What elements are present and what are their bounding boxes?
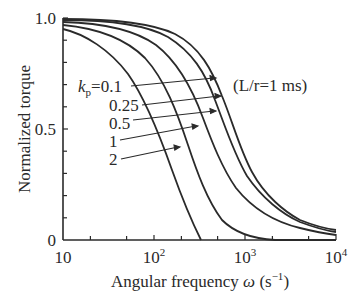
x-tick-label-10000: 104 bbox=[325, 246, 348, 267]
curve-kp-1 bbox=[63, 25, 336, 240]
curves bbox=[63, 19, 336, 240]
kp-label-0.25: 0.25 bbox=[109, 96, 139, 115]
time-constant-annotation: (L/r=1 ms) bbox=[233, 76, 307, 95]
y-tick-label-1: 1.0 bbox=[35, 9, 56, 28]
torque-frequency-chart: kp=0.1 0.25 0.5 1 2 (L/r=1 ms) 1.0 0.5 0… bbox=[0, 0, 354, 299]
kp-label-0.1: kp=0.1 bbox=[78, 77, 122, 98]
curve-kp-0.25 bbox=[63, 20, 336, 232]
x-tick-label-100: 102 bbox=[143, 246, 166, 267]
curve-kp-2 bbox=[63, 29, 201, 240]
kp-labels: kp=0.1 0.25 0.5 1 2 bbox=[78, 77, 139, 169]
x-tick-label-1000: 103 bbox=[234, 246, 257, 267]
curve-kp-0.1 bbox=[63, 19, 336, 230]
y-tick-label-0.5: 0.5 bbox=[35, 120, 56, 139]
x-tick-label-10: 10 bbox=[55, 248, 72, 267]
kp-label-2: 2 bbox=[109, 150, 118, 169]
y-axis-label: Normalized torque bbox=[15, 65, 34, 193]
leader-lines bbox=[120, 76, 221, 160]
kp-label-0.5: 0.5 bbox=[109, 114, 130, 133]
axes bbox=[63, 18, 336, 240]
kp-label-1: 1 bbox=[109, 132, 118, 151]
x-axis-label: Angular frequency ω (s−1) bbox=[111, 270, 289, 291]
